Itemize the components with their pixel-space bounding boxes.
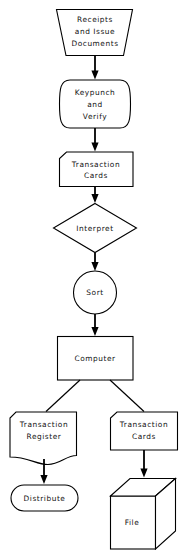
arrow-head-icon: [91, 327, 98, 336]
node-keypunch-label-line2: and: [87, 100, 103, 109]
arrow-head-icon: [91, 194, 98, 203]
node-interpret-label: Interpret: [76, 224, 113, 233]
node-receipts-label-line1: Receipts: [77, 15, 113, 24]
node-receipts-label-line2: and Issue: [75, 27, 115, 36]
node-transaction-cards-top[interactable]: Transaction Cards: [60, 152, 134, 187]
flowchart-canvas: Receipts and Issue Documents Keypunch an…: [0, 0, 188, 560]
node-sort-label: Sort: [86, 288, 103, 297]
edge-sort-to-computer: [91, 314, 98, 336]
arrow-head-icon: [140, 469, 147, 478]
node-interpret[interactable]: Interpret: [54, 204, 137, 253]
node-file-label: File: [125, 518, 140, 527]
arrow-head-icon: [91, 71, 98, 80]
node-keypunch-label-line3: Verify: [83, 112, 107, 121]
node-transaction-register[interactable]: Transaction Register: [10, 412, 77, 465]
punched-card-shape: [60, 152, 134, 187]
node-transaction-cards-top-label-line1: Transaction: [71, 160, 120, 169]
edge-computer-to-transaction-cards-bottom: [110, 380, 144, 412]
edge-computer-to-transaction-register: [46, 380, 80, 412]
flowchart-diagram: Receipts and Issue Documents Keypunch an…: [0, 0, 188, 560]
edge-keypunch-to-transaction-cards-1: [91, 128, 98, 152]
node-distribute[interactable]: Distribute: [11, 485, 78, 511]
node-receipts-and-issue-documents[interactable]: Receipts and Issue Documents: [57, 10, 133, 56]
edge-receipts-to-keypunch: [91, 56, 98, 80]
node-distribute-label: Distribute: [24, 494, 66, 503]
node-transaction-cards-bottom[interactable]: Transaction Cards: [111, 412, 178, 450]
arrow-head-icon: [91, 262, 98, 271]
node-transaction-register-label-line1: Transaction: [19, 420, 68, 429]
arrow-head-icon: [91, 143, 98, 152]
node-receipts-label-line3: Documents: [71, 39, 118, 48]
node-keypunch-and-verify[interactable]: Keypunch and Verify: [60, 80, 131, 128]
node-file[interactable]: File: [111, 479, 176, 550]
edge-interpret-to-sort: [91, 253, 98, 272]
edge-transaction-cards-bottom-to-file: [140, 450, 147, 478]
node-computer-label: Computer: [74, 354, 116, 363]
edge-transaction-cards-1-to-interpret: [91, 187, 98, 204]
node-transaction-cards-bottom-label-line2: Cards: [132, 432, 156, 441]
node-transaction-register-label-line2: Register: [27, 432, 62, 441]
node-keypunch-label-line1: Keypunch: [75, 88, 116, 97]
node-computer[interactable]: Computer: [58, 337, 134, 381]
node-sort[interactable]: Sort: [74, 271, 117, 314]
arrow-head-icon: [40, 475, 47, 484]
node-transaction-cards-top-label-line2: Cards: [84, 171, 108, 180]
node-transaction-cards-bottom-label-line1: Transaction: [119, 420, 168, 429]
